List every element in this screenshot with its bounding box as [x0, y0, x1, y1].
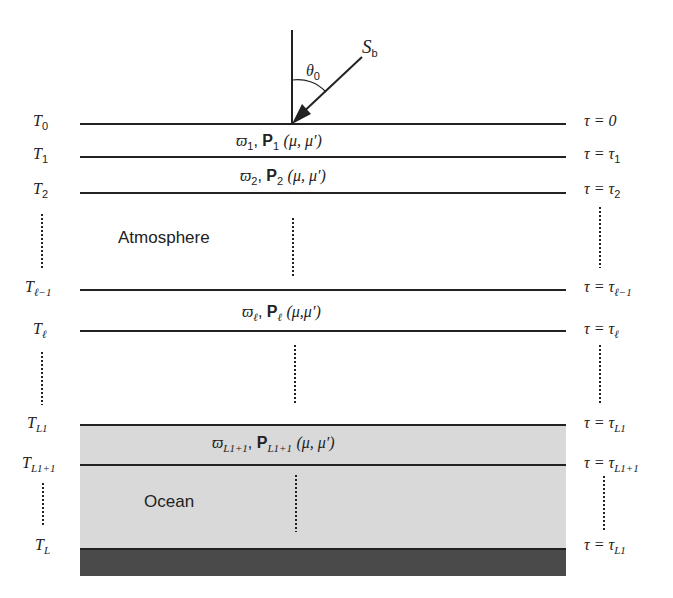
tau-label-L1: τ = τL1: [584, 414, 626, 434]
tau-label-2: τ = τ2: [584, 180, 620, 200]
tau-label-l-minus-1: τ = τℓ−1: [584, 278, 632, 298]
temp-label-L1-plus-1: TL1+1: [22, 454, 55, 474]
tau-label-L: τ = τL1: [584, 536, 626, 556]
tau-label-0: τ = 0: [584, 112, 617, 130]
temp-label-L1: TL1: [27, 414, 48, 434]
temp-label-l-minus-1: Tℓ−1: [25, 278, 51, 298]
solar-flux-label: Sb: [362, 36, 378, 59]
temp-label-2: T2: [33, 180, 48, 200]
diagram-canvas: [0, 0, 673, 598]
ocean-label: Ocean: [144, 492, 194, 512]
layer-2-properties: ϖ2, P2 (μ, μ′): [240, 167, 326, 187]
temp-label-1: T1: [33, 145, 48, 165]
tau-label-1: τ = τ1: [584, 145, 620, 165]
layer-l-properties: ϖℓ, Pℓ (μ,μ′): [242, 303, 321, 323]
layer-1-properties: ϖ1, P1 (μ, μ′): [236, 132, 322, 152]
temp-label-l: Tℓ: [33, 320, 47, 340]
tau-label-l: τ = τℓ: [584, 320, 619, 340]
atmosphere-label: Atmosphere: [118, 228, 210, 248]
zenith-angle-label: θ0: [306, 62, 320, 82]
temp-label-0: T0: [33, 112, 48, 132]
tau-label-L1-plus-1: τ = τL1+1: [584, 454, 639, 474]
temp-label-L: TL: [35, 536, 50, 556]
ocean-bottom: [80, 549, 566, 576]
layer-L1-plus-1-properties: ϖL1+1, PL1+1 (μ, μ′): [212, 434, 335, 454]
